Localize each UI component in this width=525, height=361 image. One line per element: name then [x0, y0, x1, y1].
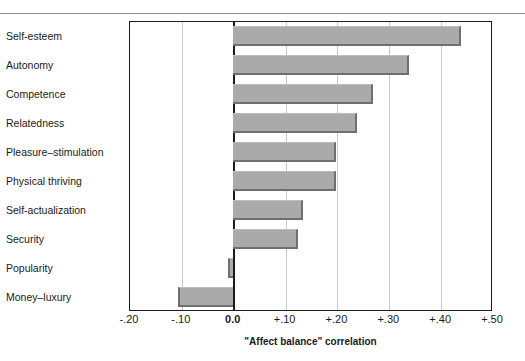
- x-tick-label: -.20: [120, 313, 139, 325]
- bar-autonomy: [233, 55, 409, 75]
- category-label: Self-actualization: [6, 204, 118, 216]
- x-axis-tick-labels: -.20-.100.0+.10+.20+.30+.40+.50: [129, 313, 492, 333]
- category-label: Relatedness: [6, 117, 118, 129]
- bar-row: [129, 166, 492, 195]
- bar-money-luxury: [178, 287, 232, 307]
- bar-row: [129, 108, 492, 137]
- x-tick-label: +.10: [274, 313, 296, 325]
- bar-physical-thriving: [233, 171, 337, 191]
- x-tick-label: +.30: [377, 313, 399, 325]
- category-label: Popularity: [6, 262, 118, 274]
- bar-row: [129, 50, 492, 79]
- affect-balance-correlation-chart: Self-esteemAutonomyCompetenceRelatedness…: [0, 0, 525, 361]
- bar-row: [129, 253, 492, 282]
- bar-row: [129, 137, 492, 166]
- bar-series: [129, 21, 492, 311]
- x-axis-title: "Affect balance" correlation: [129, 336, 492, 347]
- category-label: Money–luxury: [6, 291, 118, 303]
- category-label: Security: [6, 233, 118, 245]
- category-label: Pleasure–stimulation: [6, 146, 118, 158]
- x-tick-label: -.10: [171, 313, 190, 325]
- header-rule: [0, 13, 525, 14]
- bar-pleasure-stimulation: [233, 142, 337, 162]
- x-tick-label: 0.0: [225, 313, 240, 325]
- category-label: Competence: [6, 88, 118, 100]
- bar-security: [233, 229, 298, 249]
- category-label: Self-esteem: [6, 30, 118, 42]
- bar-self-esteem: [233, 26, 461, 46]
- x-tick-label: +.20: [326, 313, 348, 325]
- category-label: Physical thriving: [6, 175, 118, 187]
- x-tick-label: +.50: [481, 313, 503, 325]
- bar-row: [129, 224, 492, 253]
- category-label: Autonomy: [6, 59, 118, 71]
- bar-competence: [233, 84, 373, 104]
- bar-row: [129, 195, 492, 224]
- bar-row: [129, 21, 492, 50]
- category-axis-labels: Self-esteemAutonomyCompetenceRelatedness…: [0, 21, 124, 311]
- bar-row: [129, 282, 492, 311]
- bar-self-actualization: [233, 200, 303, 220]
- bar-row: [129, 79, 492, 108]
- bar-relatedness: [233, 113, 357, 133]
- x-tick-label: +.40: [429, 313, 451, 325]
- bar-popularity: [228, 258, 233, 278]
